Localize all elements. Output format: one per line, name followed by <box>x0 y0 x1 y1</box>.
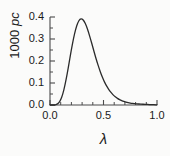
chart-figure: 1000 pc 0.00.10.20.30.4 0.00.51.0 λ <box>0 0 170 156</box>
plot-area <box>0 0 170 156</box>
data-series <box>50 19 157 105</box>
series-line-0 <box>50 19 157 105</box>
axes <box>50 17 157 105</box>
